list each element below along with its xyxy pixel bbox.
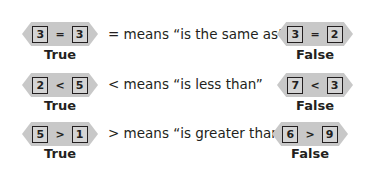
number-box: 3 (327, 77, 343, 94)
operator-symbol: = (310, 29, 319, 40)
number-box: 5 (32, 126, 48, 143)
true-label: True (22, 48, 98, 62)
false-example-equals: 3 = 2 (277, 22, 353, 46)
true-example-greater-than: 5 > 1 (22, 122, 98, 146)
true-label: True (22, 147, 98, 161)
number-box: 7 (287, 77, 303, 94)
number-box: 9 (322, 126, 338, 143)
meaning-text-less-than: < means “is less than” (108, 76, 263, 92)
number-box: 3 (32, 26, 48, 43)
operator-symbol: < (55, 80, 64, 91)
number-box: 5 (72, 77, 88, 94)
number-box: 2 (327, 26, 343, 43)
true-example-equals: 3 = 3 (22, 22, 98, 46)
operator-symbol: > (305, 129, 314, 140)
operator-symbol: = (55, 29, 64, 40)
false-label: False (272, 147, 348, 161)
operator-symbol: > (55, 129, 64, 140)
operator-symbol: < (310, 80, 319, 91)
false-example-greater-than: 6 > 9 (272, 122, 348, 146)
false-label: False (277, 48, 353, 62)
true-example-less-than: 2 < 5 (22, 73, 98, 97)
number-box: 2 (32, 77, 48, 94)
false-example-less-than: 7 < 3 (277, 73, 353, 97)
meaning-text-equals: = means “is the same as” (108, 26, 285, 42)
number-box: 3 (287, 26, 303, 43)
meaning-text-greater-than: > means “is greater than” (108, 125, 286, 141)
number-box: 6 (282, 126, 298, 143)
false-label: False (277, 99, 353, 113)
number-box: 3 (72, 26, 88, 43)
true-label: True (22, 99, 98, 113)
number-box: 1 (72, 126, 88, 143)
